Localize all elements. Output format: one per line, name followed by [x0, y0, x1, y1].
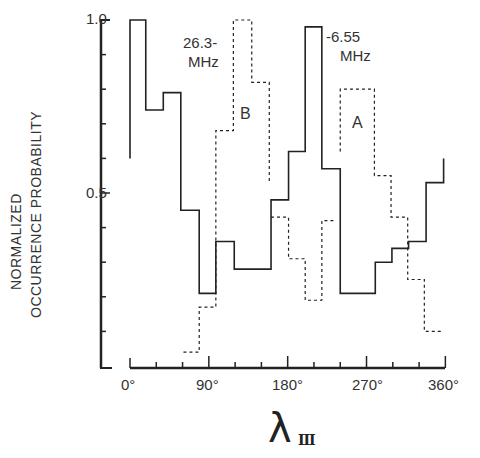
annotation-6-55-mhz: -6.55 MHz: [326, 27, 371, 65]
x-axis-title-subscript: III: [298, 432, 315, 448]
annotation-26-3-line1: 26.3-: [183, 33, 219, 52]
plot-area: [0, 0, 480, 458]
y-axis-title-line2: OCCURRENCE PROBABILITY: [28, 111, 44, 318]
x-axis-title: λ: [268, 405, 292, 451]
solid-step-series: [130, 20, 444, 293]
y-tick-0-5: 0.5: [86, 184, 107, 201]
annotation-26-3-line2: MHz: [183, 52, 219, 71]
data-series: [130, 20, 444, 352]
x-tick-90: 90°: [196, 376, 219, 393]
histogram-chart: NORMALIZED OCCURRENCE PROBABILITY 1.0 0.…: [0, 0, 480, 458]
annotation-26-3-mhz: 26.3- MHz: [183, 33, 219, 71]
annotation-6-55-line2: MHz: [326, 46, 371, 65]
x-tick-0: 0°: [121, 376, 135, 393]
y-axis-title: NORMALIZED OCCURRENCE PROBABILITY: [6, 60, 66, 320]
annotation-6-55-line1: -6.55: [326, 27, 371, 46]
x-tick-180: 180°: [272, 376, 303, 393]
axes: [100, 20, 445, 368]
y-tick-1-0: 1.0: [86, 10, 107, 27]
y-axis-title-line1: NORMALIZED: [8, 193, 24, 290]
dashed-step-series: [271, 217, 335, 300]
source-b-label: B: [240, 104, 251, 123]
source-a-label: A: [352, 113, 363, 132]
x-tick-270: 270°: [352, 376, 383, 393]
x-tick-360: 360°: [428, 376, 459, 393]
